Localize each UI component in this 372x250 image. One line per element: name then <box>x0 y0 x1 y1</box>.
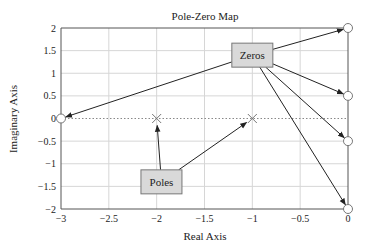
grid <box>61 28 348 209</box>
y-tick-label: −0.5 <box>38 136 56 147</box>
annotation-arrow <box>273 29 343 49</box>
x-tick-label: 0 <box>346 213 351 224</box>
x-tick-label: −3 <box>56 213 67 224</box>
zero-marker <box>344 91 353 100</box>
y-tick-label: −1 <box>45 158 56 169</box>
y-tick-label: 2 <box>51 23 56 34</box>
x-tick-label: −0.5 <box>291 213 309 224</box>
zero-marker <box>57 114 66 123</box>
x-tick-label: −1.5 <box>195 213 213 224</box>
y-tick-label: 1.5 <box>44 45 57 56</box>
y-tick-label: 1 <box>51 68 56 79</box>
annotations: ZerosPoles <box>66 29 346 204</box>
tick-labels: −3−2.5−2−1.5−1−0.5021.510.50−0.5−1−1.5−2 <box>38 23 351 225</box>
y-tick-label: 0 <box>51 113 56 124</box>
x-axis-label: Real Axis <box>183 230 226 242</box>
annotation-arrow <box>66 62 232 117</box>
chart-title: Pole-Zero Map <box>172 10 239 22</box>
y-tick-label: −2 <box>45 204 56 215</box>
annotation-arrow <box>273 64 344 94</box>
y-tick-label: 0.5 <box>44 90 57 101</box>
annotation-arrow <box>260 67 346 205</box>
x-tick-label: −1 <box>247 213 258 224</box>
zero-marker <box>344 24 353 33</box>
y-axis-label: Imaginary Axis <box>7 85 19 153</box>
zero-marker <box>344 137 353 146</box>
annotation-label-poles: Poles <box>150 176 174 188</box>
x-tick-label: −2 <box>151 213 162 224</box>
y-tick-label: −1.5 <box>38 181 56 192</box>
zero-marker <box>344 205 353 214</box>
annotation-arrow <box>179 123 247 170</box>
annotation-label-zeros: Zeros <box>240 49 265 61</box>
x-tick-label: −2.5 <box>100 213 118 224</box>
pole-zero-chart: −3−2.5−2−1.5−1−0.5021.510.50−0.5−1−1.5−2… <box>0 0 372 250</box>
annotation-arrow <box>157 125 160 169</box>
